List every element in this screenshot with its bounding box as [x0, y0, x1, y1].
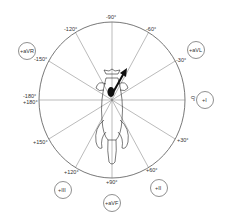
label-neg150: -150° [34, 56, 47, 62]
hexaxial-diagram: -90° -60° -30° 0° +30° +60° +90° +120° +… [0, 0, 233, 223]
axis-lines [39, 22, 185, 178]
lead-i-label: +I [202, 97, 207, 103]
label-zero: 0° [190, 96, 196, 101]
lead-iii-label: +III [58, 187, 66, 193]
lead-circles [19, 42, 214, 212]
angle-labels: -90° -60° -30° 0° +30° +60° +90° +120° +… [23, 14, 196, 185]
lead-avf-label: +aVF [105, 200, 119, 206]
label-neg60: -60° [146, 26, 156, 32]
label-neg30: -30° [176, 57, 186, 63]
label-pos60: +60° [146, 167, 158, 173]
label-pos150: +150° [33, 139, 48, 145]
label-pos90: +90° [106, 179, 118, 185]
label-pos30: +30° [177, 137, 189, 143]
label-neg180: -180° [23, 93, 36, 99]
lead-avl-label: +aVL [189, 47, 202, 53]
label-pos180: +180° [23, 99, 38, 105]
label-neg120: -120° [64, 26, 77, 32]
lead-avr-label: +aVR [20, 48, 34, 54]
label-pos120: +120° [64, 169, 79, 175]
label-neg90: -90° [106, 14, 116, 20]
lead-ii-label: +II [155, 185, 162, 191]
